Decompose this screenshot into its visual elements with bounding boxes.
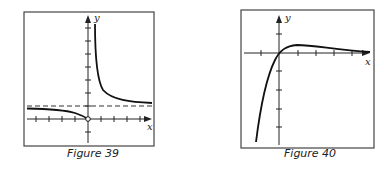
figure-40-frame	[241, 10, 374, 148]
figure-40-y-label: y	[284, 12, 291, 23]
figure-39-open-point	[86, 117, 91, 122]
figure-39-y-label: y	[93, 12, 100, 23]
figure-39-caption: Figure 39	[67, 147, 119, 160]
figure-39-frame	[24, 12, 154, 146]
figure-39-plot: y x	[24, 12, 154, 146]
figure-40-x-label: x	[365, 56, 371, 67]
figure-39-right-branch	[95, 24, 152, 103]
figure-39-x-label: x	[147, 121, 153, 132]
figure-40-caption: Figure 40	[284, 147, 336, 160]
y-axis-arrow-icon	[276, 15, 282, 23]
figure-40-curve	[256, 45, 370, 142]
figures-canvas: y x y x	[0, 0, 384, 171]
y-axis-arrow-icon	[85, 15, 91, 23]
figure-40-plot: y x	[241, 10, 374, 148]
